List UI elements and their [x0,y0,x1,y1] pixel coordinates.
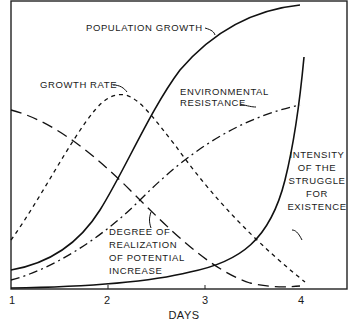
x-tick-3: 3 [202,294,208,306]
label-intensity-line2: OF THE [298,162,336,173]
x-tick-4: 4 [298,294,304,306]
label-intensity-line5: EXISTENCE [287,201,346,212]
population-growth-diagram: POPULATION GROWTH GROWTH RATE ENVIRONMEN… [0,0,351,322]
label-degree-line3: OF POTENTIAL [109,252,185,263]
label-environmental-line2: RESISTANCE [180,97,246,108]
x-axis-title: DAYS [168,309,199,321]
label-growth-rate: GROWTH RATE [40,79,117,90]
label-degree-line2: REALIZATION [109,239,177,250]
label-environmental-line1: ENVIRONMENTAL [180,86,269,97]
x-tick-2: 2 [104,294,110,306]
label-degree-line1: DEGREE OF [109,226,170,237]
x-tick-1: 1 [9,294,15,306]
label-intensity-line4: FOR [306,188,328,199]
label-intensity-line3: STRUGGLE [288,175,345,186]
plot-frame [11,1,347,289]
label-population-growth: POPULATION GROWTH [86,22,203,33]
label-intensity-line1: INTENSITY [289,149,344,160]
label-degree-line4: INCREASE [109,265,162,276]
